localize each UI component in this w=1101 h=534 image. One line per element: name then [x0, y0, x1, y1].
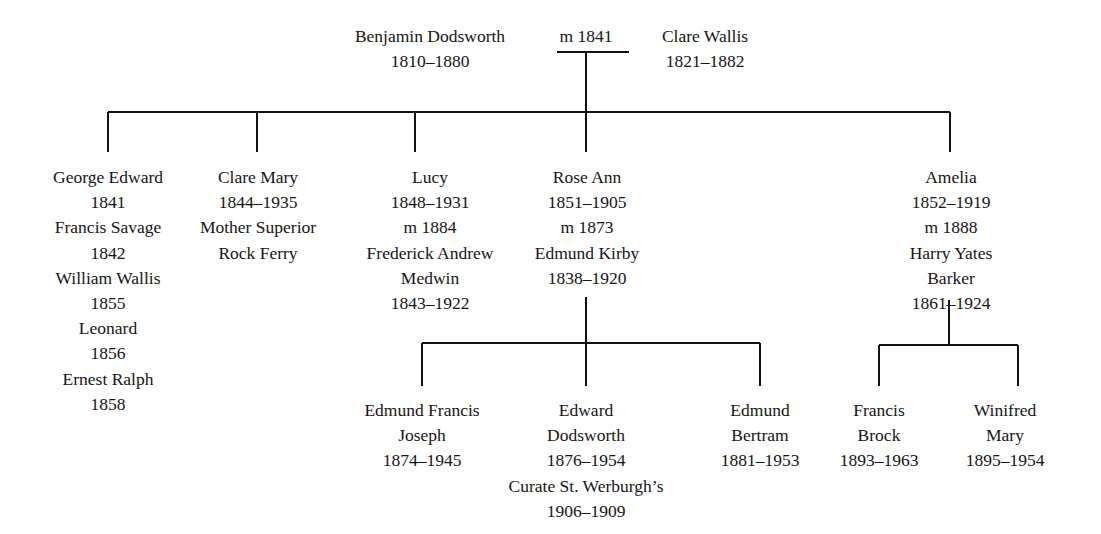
person-line: Harry Yates — [864, 241, 1038, 266]
person-line: Amelia — [864, 165, 1038, 190]
person-edmund-francis-joseph: Edmund Francis Joseph 1874–1945 — [345, 398, 499, 474]
person-george-edward-and-siblings: George Edward 1841 Francis Savage 1842 W… — [18, 165, 198, 417]
person-line: Barker — [864, 266, 1038, 291]
person-line: Medwin — [340, 266, 520, 291]
person-dates: 1821–1882 — [620, 49, 790, 74]
person-line: Edmund Francis — [345, 398, 499, 423]
person-line: 1881–1953 — [692, 448, 828, 473]
person-clare-mary: Clare Mary 1844–1935 Mother Superior Roc… — [175, 165, 341, 266]
person-name: Benjamin Dodsworth — [310, 24, 550, 49]
person-amelia: Amelia 1852–1919 m 1888 Harry Yates Bark… — [864, 165, 1038, 316]
person-line: Rock Ferry — [175, 241, 341, 266]
person-clare-wallis: Clare Wallis 1821–1882 — [620, 24, 790, 74]
person-francis-brock: Francis Brock 1893–1963 — [820, 398, 938, 474]
person-line: Rose Ann — [508, 165, 666, 190]
person-line: 1876–1954 — [498, 448, 674, 473]
person-line: 1858 — [18, 392, 198, 417]
person-line: Frederick Andrew — [340, 241, 520, 266]
person-line: 1844–1935 — [175, 190, 341, 215]
person-line: Edmund — [692, 398, 828, 423]
person-winifred-mary: Winifred Mary 1895–1954 — [942, 398, 1068, 474]
person-line: 1855 — [18, 291, 198, 316]
person-line: 1851–1905 — [508, 190, 666, 215]
person-line: 1842 — [18, 241, 198, 266]
person-line: Francis Savage — [18, 215, 198, 240]
person-rose-ann: Rose Ann 1851–1905 m 1873 Edmund Kirby 1… — [508, 165, 666, 291]
person-line: m 1884 — [340, 215, 520, 240]
person-line: 1838–1920 — [508, 266, 666, 291]
person-line: 1895–1954 — [942, 448, 1068, 473]
person-edmund-bertram: Edmund Bertram 1881–1953 — [692, 398, 828, 474]
person-line: Ernest Ralph — [18, 367, 198, 392]
person-edward-dodsworth: Edward Dodsworth 1876–1954 Curate St. We… — [498, 398, 674, 524]
person-line: George Edward — [18, 165, 198, 190]
person-line: Bertram — [692, 423, 828, 448]
person-line-role-dates: 1906–1909 — [498, 499, 674, 524]
person-line: 1856 — [18, 341, 198, 366]
person-line: Dodsworth — [498, 423, 674, 448]
person-line: 1848–1931 — [340, 190, 520, 215]
person-line: Leonard — [18, 316, 198, 341]
person-line: William Wallis — [18, 266, 198, 291]
family-tree-diagram: Benjamin Dodsworth 1810–1880 m 1841 Clar… — [0, 0, 1101, 534]
person-line: Lucy — [340, 165, 520, 190]
person-line: 1852–1919 — [864, 190, 1038, 215]
person-line-role: Curate St. Werburgh’s — [498, 474, 674, 499]
person-line: Joseph — [345, 423, 499, 448]
person-line: 1843–1922 — [340, 291, 520, 316]
person-lucy: Lucy 1848–1931 m 1884 Frederick Andrew M… — [340, 165, 520, 316]
person-line: Brock — [820, 423, 938, 448]
person-line: Winifred — [942, 398, 1068, 423]
person-line: 1874–1945 — [345, 448, 499, 473]
person-line: Mary — [942, 423, 1068, 448]
person-line: Clare Mary — [175, 165, 341, 190]
person-line: m 1873 — [508, 215, 666, 240]
person-line: 1841 — [18, 190, 198, 215]
person-line: Edward — [498, 398, 674, 423]
person-line: m 1888 — [864, 215, 1038, 240]
person-line: 1861–1924 — [864, 291, 1038, 316]
person-name: Clare Wallis — [620, 24, 790, 49]
person-dates: 1810–1880 — [310, 49, 550, 74]
person-line: Mother Superior — [175, 215, 341, 240]
person-benjamin-dodsworth: Benjamin Dodsworth 1810–1880 — [310, 24, 550, 74]
person-line: Edmund Kirby — [508, 241, 666, 266]
person-line: 1893–1963 — [820, 448, 938, 473]
person-line: Francis — [820, 398, 938, 423]
